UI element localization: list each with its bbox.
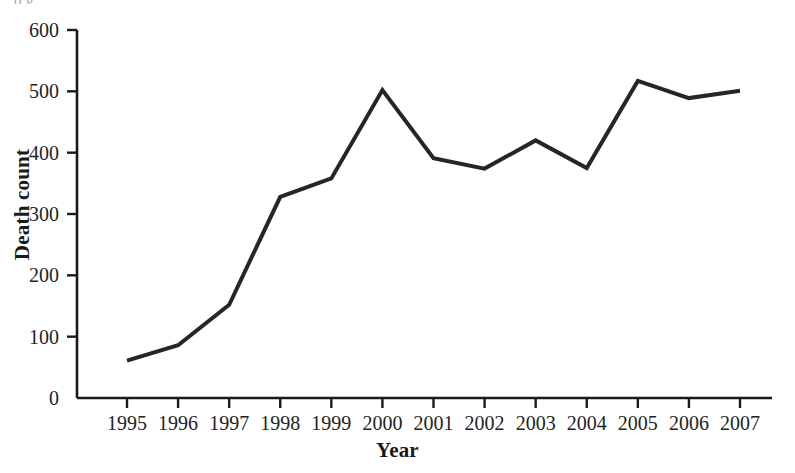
x-tick-label: 2000 <box>362 412 402 435</box>
y-tick-marks <box>67 30 77 337</box>
x-tick-marks <box>127 398 740 408</box>
y-tick-label: 300 <box>0 203 59 226</box>
y-tick-label: 100 <box>0 325 59 348</box>
x-tick-label: 2002 <box>465 412 505 435</box>
y-tick-label: 0 <box>0 387 59 410</box>
line-chart-figure: o g Death count Year 0100200300400500600… <box>0 0 795 473</box>
x-tick-label: 1995 <box>107 412 147 435</box>
x-tick-label: 1997 <box>209 412 249 435</box>
y-tick-label: 200 <box>0 264 59 287</box>
x-tick-label: 2001 <box>414 412 454 435</box>
x-tick-label: 2006 <box>669 412 709 435</box>
x-tick-label: 2007 <box>720 412 760 435</box>
plot-area <box>0 0 795 473</box>
y-tick-label: 400 <box>0 141 59 164</box>
y-tick-label: 500 <box>0 80 59 103</box>
x-tick-label: 2005 <box>618 412 658 435</box>
x-tick-label: 2003 <box>516 412 556 435</box>
x-tick-label: 1996 <box>158 412 198 435</box>
x-tick-label: 1999 <box>311 412 351 435</box>
y-tick-label: 600 <box>0 19 59 42</box>
x-tick-label: 1998 <box>260 412 300 435</box>
data-series-line <box>127 81 740 361</box>
x-tick-label: 2004 <box>567 412 607 435</box>
